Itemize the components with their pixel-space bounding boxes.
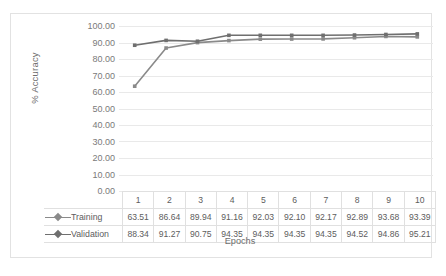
y-axis-tick-20-00: 20.00 (59, 154, 115, 163)
chart-frame: % Accuracy 100.0090.0080.0070.0060.0050.… (10, 13, 432, 258)
y-axis-tick-60-00: 60.00 (59, 88, 115, 97)
data-point-validation-7 (321, 34, 325, 38)
table-header-epoch-8: 8 (342, 192, 373, 209)
table-cell-training-3: 89.94 (185, 209, 216, 226)
table-header-epoch-5: 5 (248, 192, 279, 209)
table-header-corner (44, 192, 123, 209)
data-point-validation-6 (290, 34, 294, 38)
table-cell-training-9: 93.68 (373, 209, 404, 226)
table-cell-training-7: 92.17 (310, 209, 341, 226)
table-header-epoch-4: 4 (216, 192, 247, 209)
table-cell-training-8: 92.89 (342, 209, 373, 226)
table-header-epoch-7: 7 (310, 192, 341, 209)
table-header-epoch-3: 3 (185, 192, 216, 209)
table-cell-training-4: 91.16 (216, 209, 247, 226)
data-point-training-2 (164, 46, 168, 50)
y-axis-tick-40-00: 40.00 (59, 121, 115, 130)
legend-marker-icon (45, 212, 71, 222)
y-axis-tick-30-00: 30.00 (59, 137, 115, 146)
data-point-training-5 (259, 37, 263, 41)
table-header-epoch-2: 2 (154, 192, 185, 209)
table-header-epoch-9: 9 (373, 192, 404, 209)
table-header-epoch-6: 6 (279, 192, 310, 209)
series-line-training (135, 36, 418, 86)
data-point-validation-1 (133, 43, 137, 47)
data-point-training-6 (290, 37, 294, 41)
y-axis-tick-70-00: 70.00 (59, 71, 115, 80)
legend-label: Training (71, 212, 102, 222)
x-axis-title: Epochs (44, 236, 436, 246)
y-axis-tick-80-00: 80.00 (59, 55, 115, 64)
table-row: Training63.5186.6489.9491.1692.0392.1092… (44, 209, 436, 226)
data-point-training-4 (227, 39, 231, 43)
table-cell-training-10: 93.39 (404, 209, 435, 226)
table-header-epoch-10: 10 (404, 192, 435, 209)
plot-lines (119, 26, 433, 191)
table-cell-training-6: 92.10 (279, 209, 310, 226)
y-axis-tick-10-00: 10.00 (59, 170, 115, 179)
data-point-validation-5 (259, 34, 263, 38)
data-point-validation-8 (353, 33, 357, 37)
y-axis-title: % Accuracy (29, 28, 45, 128)
data-point-validation-9 (384, 33, 388, 37)
table-cell-training-2: 86.64 (154, 209, 185, 226)
table-header-epoch-1: 1 (123, 192, 154, 209)
data-point-training-1 (133, 84, 137, 88)
plot-area (119, 26, 433, 191)
data-point-validation-2 (164, 39, 168, 43)
table-header-row: 12345678910 (44, 192, 436, 209)
table-cell-training-5: 92.03 (248, 209, 279, 226)
y-axis-tick-100-00: 100.00 (59, 22, 115, 31)
data-point-validation-10 (416, 32, 420, 36)
legend-entry-training: Training (44, 209, 123, 226)
data-point-validation-3 (196, 39, 200, 43)
y-axis-tick-90-00: 90.00 (59, 38, 115, 47)
y-axis-tick-50-00: 50.00 (59, 104, 115, 113)
data-point-validation-4 (227, 34, 231, 38)
table-cell-training-1: 63.51 (123, 209, 154, 226)
data-point-training-7 (321, 37, 325, 41)
y-axis-tick-labels: 100.0090.0080.0070.0060.0050.0040.0030.0… (59, 26, 115, 191)
